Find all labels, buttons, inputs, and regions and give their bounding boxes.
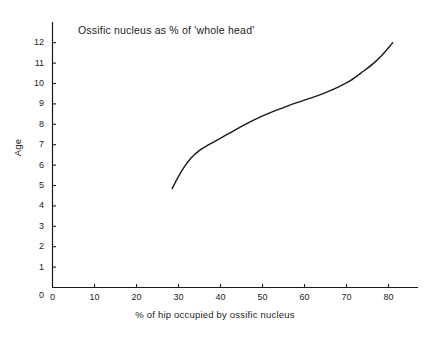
- y-tick-label: 7: [22, 139, 44, 149]
- axis-lines: [52, 22, 418, 288]
- plot-canvas: [0, 0, 430, 341]
- x-tick-label: 30: [169, 292, 189, 302]
- x-tick-label: 10: [85, 292, 105, 302]
- y-tick-label: 8: [22, 119, 44, 129]
- y-tick-label: 2: [22, 241, 44, 251]
- y-tick-label: 12: [22, 37, 44, 47]
- y-tick-label: 9: [22, 98, 44, 108]
- x-tick-label: 40: [211, 292, 231, 302]
- y-tick-label: 3: [22, 221, 44, 231]
- y-tick-label: 5: [22, 180, 44, 190]
- x-tick-label: 0: [43, 292, 63, 302]
- x-tick-label: 50: [253, 292, 273, 302]
- y-tick-label: 1: [22, 262, 44, 272]
- x-axis-label: % of hip occupied by ossific nucleus: [0, 309, 430, 320]
- x-tick-label: 80: [379, 292, 399, 302]
- data-series-line: [172, 43, 393, 189]
- y-tick-label: 4: [22, 200, 44, 210]
- chart-figure: Ossific nucleus as % of 'whole head' % o…: [0, 0, 430, 341]
- y-tick-label: 0: [22, 290, 44, 300]
- chart-title: Ossific nucleus as % of 'whole head': [78, 24, 254, 36]
- x-tick-label: 60: [295, 292, 315, 302]
- y-tick-label: 10: [22, 78, 44, 88]
- y-tick-label: 6: [22, 160, 44, 170]
- y-tick-label: 11: [22, 58, 44, 68]
- x-tick-label: 70: [337, 292, 357, 302]
- x-tick-label: 20: [127, 292, 147, 302]
- y-axis-label: Age: [12, 123, 23, 173]
